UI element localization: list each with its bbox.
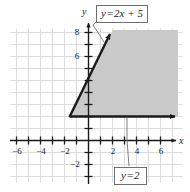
x-tick-label--4: −4: [34, 146, 48, 156]
x-tick-label-6: 6: [155, 146, 167, 156]
callout-hline-eq: =: [126, 169, 134, 181]
x-tick-label--2: −2: [58, 146, 72, 156]
callout-hline-equation: y=2: [114, 167, 147, 185]
callout-hline-rhs: 2: [134, 169, 140, 181]
plot-canvas: [0, 0, 190, 192]
y-tick-label--2: −2: [68, 159, 82, 169]
leader-line-horizontal: [127, 118, 129, 166]
x-axis-label: x: [179, 135, 183, 146]
y-tick-label-6: 6: [72, 51, 82, 61]
x-tick-label--6: −6: [10, 146, 24, 156]
y-tick-label-8: 8: [72, 27, 82, 37]
leader-line-slanted: [93, 21, 104, 42]
x-tick-label-4: 4: [131, 146, 143, 156]
graph-figure: y x −6 −4 −2 2 4 6 8 6 −2 y=2x + 5 y=2: [0, 0, 190, 192]
callout-line-equation: y=2x + 5: [96, 5, 148, 23]
x-tick-label-2: 2: [107, 146, 119, 156]
shaded-solution-region: [70, 30, 178, 117]
callout-line-rhs: 2x + 5: [114, 7, 143, 19]
callout-line-eq: =: [106, 7, 114, 19]
y-axis-label: y: [82, 6, 86, 17]
